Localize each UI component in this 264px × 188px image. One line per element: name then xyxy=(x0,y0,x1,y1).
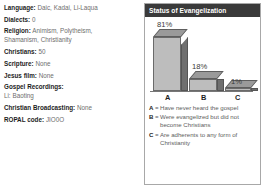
info-value-ropal-code: JIO0O xyxy=(46,116,64,123)
bar-a-top xyxy=(153,29,188,37)
bar-value-a: 81% xyxy=(157,20,172,29)
legend-item-a: A = Have never heard the gospel xyxy=(149,104,256,112)
info-label-religion: Religion: xyxy=(4,27,31,34)
bar-group-b xyxy=(189,71,225,91)
info-row-ropal-code: ROPAL code: JIO0O xyxy=(4,115,136,124)
bar-b-front xyxy=(189,79,217,91)
info-row-dialects: Dialects: 0 xyxy=(4,15,136,24)
info-row-jesus-film: Jesus film: None xyxy=(4,71,136,80)
info-value-gospel-recordings: Li: Baoting xyxy=(4,92,34,99)
language-info-panel: Language: Daic, Kadai, Li-Laqua Dialects… xyxy=(4,3,136,185)
info-row-religion: Religion: Animism, Polytheism, Shamanism… xyxy=(4,26,136,44)
info-label-christians: Christians: xyxy=(4,48,37,55)
info-label-jesus-film: Jesus film: xyxy=(4,72,37,79)
bar-c-side xyxy=(251,88,258,91)
legend-item-b: B = Were evangelized but did not become … xyxy=(149,113,256,129)
legend-item-c: C = Are adherents to any form of Christi… xyxy=(149,131,256,147)
info-value-christian-broadcasting: None xyxy=(77,104,92,111)
info-card: Language: Daic, Kadai, Li-Laqua Dialects… xyxy=(0,0,264,188)
bar-b-top xyxy=(189,71,224,79)
info-value-christians: 50 xyxy=(39,48,46,55)
chart-baseline xyxy=(150,91,253,92)
info-label-dialects: Dialects: xyxy=(4,16,30,23)
info-value-jesus-film: None xyxy=(39,72,54,79)
info-value-religion-line2: Shamanism, Christianity xyxy=(4,36,72,43)
info-label-language: Language: xyxy=(4,4,36,11)
chart-legend: A = Have never heard the gospel B = Were… xyxy=(145,104,260,148)
info-row-language: Language: Daic, Kadai, Li-Laqua xyxy=(4,3,136,12)
info-value-scripture: None xyxy=(35,60,50,67)
info-row-christian-broadcasting: Christian Broadcasting: None xyxy=(4,103,136,112)
info-value-dialects: 0 xyxy=(32,16,35,23)
info-value-language: Daic, Kadai, Li-Laqua xyxy=(38,4,98,11)
bar-group-a xyxy=(153,29,189,91)
info-label-ropal-code: ROPAL code: xyxy=(4,116,44,123)
bar-c-front xyxy=(225,88,251,91)
axis-label-a: A xyxy=(165,93,170,102)
legend-text-a: Have never heard the gospel xyxy=(160,104,256,112)
info-row-gospel-recordings: Gospel Recordings: Li: Baoting xyxy=(4,82,136,100)
info-row-christians: Christians: 50 xyxy=(4,47,136,56)
evangelization-chart-panel: Status of Evangelization 81% 18% xyxy=(144,3,261,185)
info-label-christian-broadcasting: Christian Broadcasting: xyxy=(4,104,75,111)
legend-text-b: Were evangelized but did not become Chri… xyxy=(160,113,256,129)
axis-label-b: B xyxy=(201,93,206,102)
bar-a-front xyxy=(153,37,181,91)
legend-text-c: Are adherents to any form of Christianit… xyxy=(160,131,256,147)
chart-panel-title: Status of Evangelization xyxy=(145,4,260,17)
bar-a-side xyxy=(181,37,188,91)
bar-b-side xyxy=(217,79,224,91)
bar-value-b: 18% xyxy=(192,62,207,71)
info-row-scripture: Scripture: None xyxy=(4,59,136,68)
bar-value-c: 1% xyxy=(231,77,242,86)
info-label-gospel-recordings: Gospel Recordings: xyxy=(4,83,64,90)
info-label-scripture: Scripture: xyxy=(4,60,34,67)
axis-label-c: C xyxy=(235,93,240,102)
bar-chart: 81% 18% 1% A B C xyxy=(145,17,260,102)
info-value-religion: Animism, Polytheism, xyxy=(32,27,92,34)
